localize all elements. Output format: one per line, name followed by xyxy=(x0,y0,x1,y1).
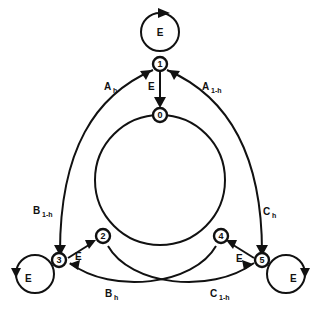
svg-text:1: 1 xyxy=(157,59,162,69)
arrowheads xyxy=(11,8,310,278)
svg-text:1-h: 1-h xyxy=(42,211,53,218)
edge-2-5 xyxy=(108,246,254,282)
arrow-1-0-icon xyxy=(154,97,166,108)
svg-text:A: A xyxy=(104,81,111,92)
node-0: 0 xyxy=(153,108,167,122)
svg-text:h: h xyxy=(113,87,117,94)
self-loop-5 xyxy=(267,255,305,293)
edge-1-3 xyxy=(60,70,153,252)
label-loop-3: E xyxy=(25,273,32,284)
label-loop-5: E xyxy=(290,273,297,284)
label-a-1-h: A 1-h xyxy=(202,81,222,94)
svg-text:1-h: 1-h xyxy=(219,294,230,301)
edge-1-5 xyxy=(167,70,262,252)
arrow-loop-5-icon xyxy=(300,268,310,278)
label-b-1-h: B 1-h xyxy=(33,205,53,218)
label-e-3-2: E xyxy=(75,251,82,262)
svg-text:C: C xyxy=(210,288,217,299)
svg-text:A: A xyxy=(202,81,209,92)
svg-text:B: B xyxy=(105,288,112,299)
node-5: 5 xyxy=(255,253,269,267)
node-4: 4 xyxy=(214,229,228,243)
svg-text:C: C xyxy=(263,206,270,217)
node-1: 1 xyxy=(153,57,167,71)
label-c-1-h: C 1-h xyxy=(210,288,230,301)
node-2: 2 xyxy=(96,229,110,243)
edge-4-3 xyxy=(70,246,216,282)
arrow-5-4-icon xyxy=(226,240,237,249)
label-b-h: B h xyxy=(105,288,118,301)
label-loop-1: E xyxy=(157,27,164,38)
arrow-loop-3-icon xyxy=(11,268,21,278)
arrow-loop-1-icon xyxy=(158,8,170,18)
label-a-h: A h xyxy=(104,81,117,94)
label-e-1-0: E xyxy=(148,81,155,92)
svg-text:4: 4 xyxy=(218,231,223,241)
node-3: 3 xyxy=(52,253,66,267)
svg-text:3: 3 xyxy=(56,255,61,265)
self-loop-3 xyxy=(16,255,54,293)
inner-circle-edge xyxy=(95,115,225,245)
label-c-h: C h xyxy=(263,206,276,219)
svg-text:B: B xyxy=(33,205,40,216)
svg-text:h: h xyxy=(272,212,276,219)
label-e-5-4: E xyxy=(236,253,243,264)
svg-text:0: 0 xyxy=(157,110,162,120)
svg-text:h: h xyxy=(114,294,118,301)
svg-text:1-h: 1-h xyxy=(211,87,222,94)
svg-text:2: 2 xyxy=(100,231,105,241)
state-diagram: 1 0 2 4 3 5 E E E E E E A h A 1-h B 1-h … xyxy=(0,0,321,312)
arrow-3-2-icon xyxy=(85,240,96,249)
svg-text:5: 5 xyxy=(259,255,264,265)
